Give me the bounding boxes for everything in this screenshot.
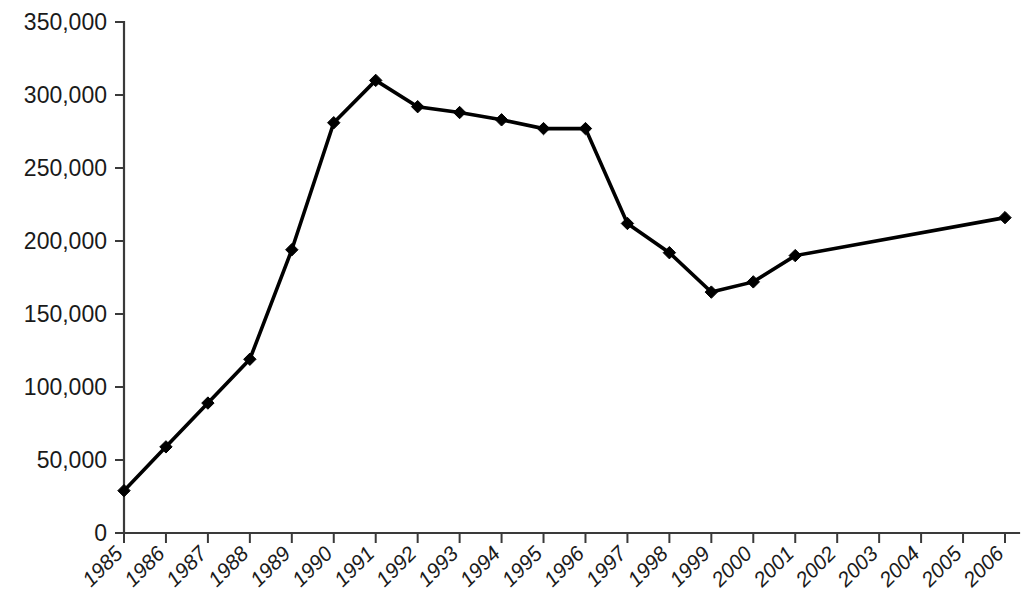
x-axis-tick-label: 1990 bbox=[287, 541, 337, 591]
x-axis-tick-label: 2000 bbox=[706, 541, 756, 591]
x-axis-tick-label: 1996 bbox=[539, 541, 589, 591]
x-axis-tick-label: 1986 bbox=[119, 541, 169, 591]
x-axis-tick-label: 1985 bbox=[78, 541, 128, 591]
y-axis-tick-label: 100,000 bbox=[24, 374, 107, 400]
x-axis-tick-label: 2003 bbox=[832, 541, 882, 591]
y-axis-tick-label: 200,000 bbox=[24, 228, 107, 254]
x-axis-tick-label: 1995 bbox=[497, 541, 547, 591]
data-point-marker bbox=[495, 114, 507, 126]
x-axis-tick-label: 1988 bbox=[203, 541, 253, 591]
series-line bbox=[124, 80, 1005, 490]
data-point-marker bbox=[579, 122, 591, 134]
y-axis-tick-label: 350,000 bbox=[24, 9, 107, 35]
x-axis-tick-label: 1994 bbox=[455, 542, 504, 591]
x-axis-tick-label: 2005 bbox=[916, 541, 966, 591]
x-axis-tick-label: 1987 bbox=[161, 541, 211, 591]
x-axis-tick-label: 1993 bbox=[413, 541, 463, 591]
y-axis-tick-label: 300,000 bbox=[24, 82, 107, 108]
data-point-marker bbox=[999, 211, 1011, 223]
y-axis-tick-label: 250,000 bbox=[24, 155, 107, 181]
x-axis-tick-label: 1999 bbox=[665, 541, 715, 591]
y-axis-tick-label: 150,000 bbox=[24, 301, 107, 327]
x-axis-tick-label: 2002 bbox=[790, 541, 840, 591]
x-axis-tick-label: 1991 bbox=[329, 542, 378, 591]
y-axis: 050,000100,000150,000200,000250,000300,0… bbox=[24, 9, 124, 546]
x-axis: 1985198619871988198919901991199219931994… bbox=[78, 533, 1019, 592]
data-point-marker bbox=[537, 122, 549, 134]
x-axis-tick-label: 2006 bbox=[958, 541, 1008, 591]
data-point-marker bbox=[453, 106, 465, 118]
data-point-marker bbox=[286, 244, 298, 256]
x-axis-tick-label: 1992 bbox=[371, 541, 421, 591]
y-axis-tick-label: 0 bbox=[94, 520, 107, 546]
line-chart: 050,000100,000150,000200,000250,000300,0… bbox=[0, 0, 1021, 613]
x-axis-tick-label: 1998 bbox=[623, 541, 673, 591]
x-axis-tick-label: 1997 bbox=[581, 541, 631, 591]
data-series bbox=[118, 74, 1011, 497]
x-axis-tick-label: 2004 bbox=[874, 542, 924, 592]
x-axis-tick-label: 1989 bbox=[245, 541, 295, 591]
y-axis-tick-label: 50,000 bbox=[37, 447, 107, 473]
chart-container: 050,000100,000150,000200,000250,000300,0… bbox=[0, 0, 1021, 613]
x-axis-tick-label: 2001 bbox=[748, 542, 798, 592]
